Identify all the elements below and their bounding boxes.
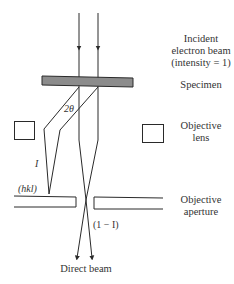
objective-lens-label-line1: Objective [168,120,234,132]
incident-beam-label-line1: Incident [168,33,234,45]
direct-beam-paths [77,86,98,258]
objective-aperture-right [94,197,163,209]
objective-lens-right [143,125,164,143]
objective-aperture-label-line1: Objective [168,194,234,206]
specimen [42,76,133,87]
specimen-label: Specimen [168,79,234,91]
objective-aperture-label: Objective aperture [168,194,234,218]
objective-lens-label: Objective lens [168,120,234,144]
objective-lens-left [15,122,35,140]
angle-label: 2θ [64,103,74,115]
direct-beam-label: Direct beam [50,263,122,275]
objective-aperture-left [14,196,76,207]
transmitted-intensity-label: (1 − I) [93,219,119,231]
reflection-label: (hkl) [18,183,37,195]
diffracted-intensity-label: I [35,158,38,170]
objective-lens-label-line2: lens [168,132,234,144]
objective-aperture-label-line2: aperture [168,206,234,218]
incident-beam-label-line2: electron beam [168,45,234,57]
incident-beam-label-line3: (intensity = 1) [168,57,234,69]
incident-beam-label: Incident electron beam (intensity = 1) [168,33,234,69]
